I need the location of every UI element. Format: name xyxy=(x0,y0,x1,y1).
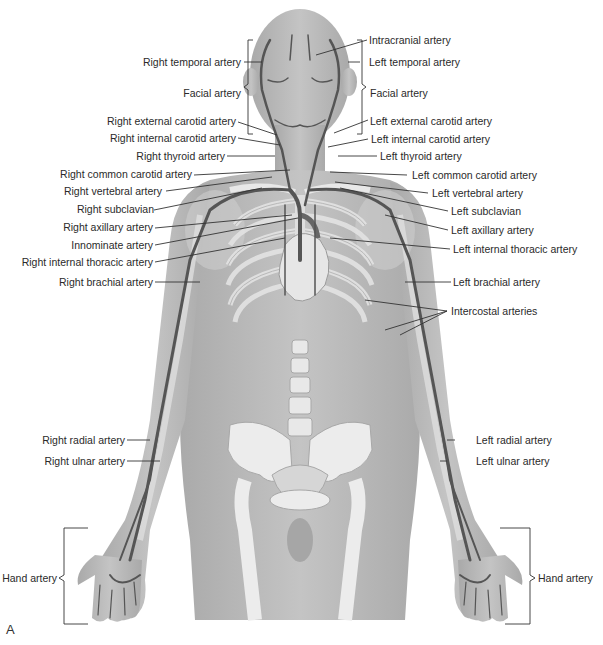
body-illustration xyxy=(0,0,603,645)
label-left-temporal-artery: Left temporal artery xyxy=(369,56,460,68)
label-right-common-carotid-artery: Right common carotid artery xyxy=(60,168,192,180)
label-right-facial-artery: Facial artery xyxy=(183,87,241,99)
label-right-internal-carotid-artery: Right internal carotid artery xyxy=(110,132,236,144)
label-left-facial-artery: Facial artery xyxy=(370,87,428,99)
label-left-subclavian: Left subclavian xyxy=(451,205,521,217)
panel-letter: A xyxy=(6,622,15,637)
label-left-axillary-artery: Left axillary artery xyxy=(451,224,534,236)
label-left-hand-artery: Hand artery xyxy=(538,572,593,584)
label-right-internal-thoracic-artery: Right internal thoracic artery xyxy=(22,256,153,268)
label-right-axillary-artery: Right axillary artery xyxy=(63,221,153,233)
label-right-temporal-artery: Right temporal artery xyxy=(143,56,241,68)
label-left-internal-carotid-artery: Left internal carotid artery xyxy=(371,133,490,145)
label-right-hand-artery: Hand artery xyxy=(2,572,57,584)
label-right-subclavian: Right subclavian xyxy=(77,203,154,215)
label-intercostal-arteries: Intercostal arteries xyxy=(451,305,537,317)
label-right-vertebral-artery: Right vertebral artery xyxy=(64,185,162,197)
label-right-radial-artery: Right radial artery xyxy=(42,434,125,446)
label-right-external-carotid-artery: Right external carotid artery xyxy=(107,115,236,127)
label-left-internal-thoracic-artery: Left internal thoracic artery xyxy=(453,243,577,255)
label-right-brachial-artery: Right brachial artery xyxy=(59,276,153,288)
label-left-brachial-artery: Left brachial artery xyxy=(453,276,540,288)
label-left-common-carotid-artery: Left common carotid artery xyxy=(412,169,537,181)
label-right-thyroid-artery: Right thyroid artery xyxy=(136,150,225,162)
arterial-system-diagram: Right temporal artery Facial artery Righ… xyxy=(0,0,603,645)
label-left-radial-artery: Left radial artery xyxy=(476,434,552,446)
label-left-ulnar-artery: Left ulnar artery xyxy=(476,455,550,467)
label-innominate-artery: Innominate artery xyxy=(71,239,153,251)
label-left-vertebral-artery: Left vertebral artery xyxy=(432,187,523,199)
label-intracranial-artery: Intracranial artery xyxy=(369,34,451,46)
label-right-ulnar-artery: Right ulnar artery xyxy=(44,455,125,467)
label-left-external-carotid-artery: Left external carotid artery xyxy=(370,115,492,127)
label-left-thyroid-artery: Left thyroid artery xyxy=(380,150,462,162)
